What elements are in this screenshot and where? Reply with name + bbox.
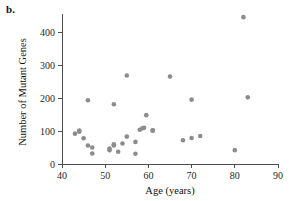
x-tick-label: 80 <box>230 170 240 181</box>
data-point <box>125 134 130 139</box>
data-point <box>125 73 130 78</box>
data-point <box>181 138 186 143</box>
data-point <box>90 151 95 156</box>
x-tick-label: 90 <box>273 170 283 181</box>
data-point <box>189 97 194 102</box>
data-point <box>233 148 238 153</box>
y-tick-label: 200 <box>40 93 55 104</box>
x-axis-ticks: 405060708090 <box>57 164 283 181</box>
data-point <box>86 98 91 103</box>
data-point <box>168 74 173 79</box>
data-point <box>133 140 138 145</box>
data-point <box>112 143 117 148</box>
data-point <box>112 102 117 107</box>
x-tick-label: 50 <box>100 170 110 181</box>
data-point <box>245 95 250 100</box>
data-point <box>90 145 95 150</box>
y-tick-label: 400 <box>40 27 55 38</box>
data-point <box>77 129 82 134</box>
data-point <box>116 149 121 154</box>
data-point <box>81 136 86 141</box>
data-point <box>86 143 91 148</box>
y-tick-label: 100 <box>40 126 55 137</box>
x-axis-title: Age (years) <box>145 185 195 197</box>
scatter-plot-figure: b. 0100200300400 Number of Mutant Genes … <box>0 0 294 201</box>
data-points-group <box>73 15 250 156</box>
x-axis-group: 405060708090 Age (years) <box>57 164 283 197</box>
y-axis-title: Number of Mutant Genes <box>17 38 28 146</box>
y-axis-ticks: 0100200300400 <box>40 27 62 170</box>
y-axis-group: 0100200300400 Number of Mutant Genes <box>17 14 62 170</box>
y-tick-label: 0 <box>50 159 55 170</box>
data-point <box>150 128 155 133</box>
x-tick-label: 60 <box>143 170 153 181</box>
data-point <box>142 125 147 130</box>
scatter-plot-canvas: 0100200300400 Number of Mutant Genes 405… <box>0 0 294 201</box>
data-point <box>198 134 203 139</box>
x-tick-label: 40 <box>57 170 67 181</box>
data-point <box>241 15 246 20</box>
data-point <box>133 151 138 156</box>
x-tick-label: 70 <box>187 170 197 181</box>
data-point <box>189 136 194 141</box>
data-point <box>144 113 149 118</box>
data-point <box>73 131 78 136</box>
data-point <box>120 141 125 146</box>
data-point <box>107 148 112 153</box>
y-tick-label: 300 <box>40 60 55 71</box>
